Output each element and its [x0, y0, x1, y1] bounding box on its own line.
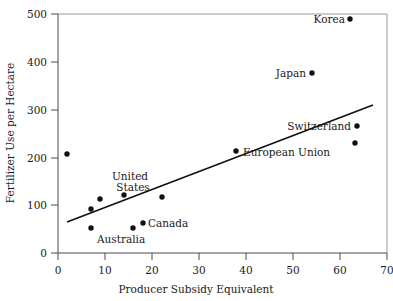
- scatter-plot-figure: 500 400 300 200 100 0 0 10 20 30 40 50 6…: [0, 0, 393, 301]
- data-point-japan: [309, 70, 314, 75]
- data-point: [97, 196, 102, 201]
- point-label-korea: Korea: [314, 13, 345, 25]
- y-axis-title: Fertilizer Use per Hectare: [4, 63, 16, 203]
- y-tick-label-200: 200: [27, 152, 47, 164]
- data-point-australia: [88, 225, 93, 230]
- y-tick-label-500: 500: [27, 8, 47, 20]
- point-label-australia: Australia: [96, 233, 145, 245]
- data-point-european-union: [233, 148, 238, 153]
- data-point-united-states: [121, 192, 126, 197]
- point-label-states: States: [116, 181, 150, 193]
- data-point: [64, 151, 69, 156]
- x-tick-label-0: 0: [55, 264, 62, 276]
- x-tick-label-70: 70: [380, 264, 393, 276]
- point-label-canada: Canada: [148, 217, 188, 229]
- x-tick-label-30: 30: [192, 264, 205, 276]
- data-point: [88, 206, 93, 211]
- y-tick-label-300: 300: [27, 104, 47, 116]
- point-label-japan: Japan: [275, 67, 306, 79]
- point-label-switzerland: Switzerland: [287, 120, 351, 132]
- data-point-canada: [140, 220, 145, 225]
- x-tick-label-60: 60: [333, 264, 346, 276]
- y-tick-label-400: 400: [27, 56, 47, 68]
- data-point-switzerland: [354, 123, 359, 128]
- data-point: [159, 194, 164, 199]
- data-point: [130, 225, 135, 230]
- point-label-european-union: European Union: [243, 146, 330, 158]
- plot-canvas: 500 400 300 200 100 0 0 10 20 30 40 50 6…: [0, 0, 393, 301]
- y-tick-label-0: 0: [40, 247, 47, 259]
- data-point-korea: [347, 16, 352, 21]
- x-tick-label-50: 50: [286, 264, 299, 276]
- data-point: [352, 140, 357, 145]
- x-axis-title: Producer Subsidy Equivalent: [118, 283, 274, 295]
- y-tick-label-100: 100: [27, 199, 47, 211]
- x-tick-label-10: 10: [98, 264, 111, 276]
- x-tick-label-20: 20: [145, 264, 158, 276]
- x-tick-label-40: 40: [239, 264, 252, 276]
- plot-frame: [58, 14, 387, 253]
